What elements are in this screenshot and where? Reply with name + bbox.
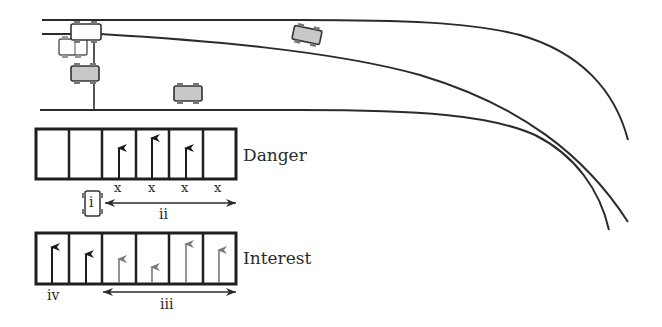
danger-mark-2: x [114, 180, 121, 195]
danger-mark-4: x [181, 180, 188, 195]
road-top-edge [42, 20, 628, 140]
interest-range-label: iii [160, 296, 173, 312]
danger-car-label: i [89, 194, 93, 210]
left-lane-car [71, 63, 99, 84]
danger-range-label: ii [159, 206, 168, 222]
interest-left-label: iv [47, 287, 59, 303]
road-diagram [0, 0, 662, 327]
ahead-car-lower [174, 83, 202, 104]
ego-car [71, 21, 101, 43]
danger-mark-3: x [148, 180, 155, 195]
danger-map [36, 129, 236, 179]
ahead-car-upper [291, 22, 323, 47]
interest-map [36, 233, 236, 284]
danger-title: Danger [243, 145, 307, 165]
interest-title: Interest [243, 248, 311, 268]
road-lines [40, 20, 628, 230]
danger-mark-5: x [214, 180, 221, 195]
